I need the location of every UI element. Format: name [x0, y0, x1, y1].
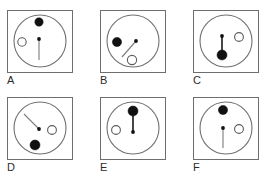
filled-dot	[128, 106, 138, 116]
dial-hub-dot	[220, 34, 224, 38]
filled-dot	[35, 18, 43, 26]
dial-graphic	[100, 10, 166, 73]
filled-dot	[112, 37, 121, 46]
dial-outline	[200, 15, 252, 67]
open-dot	[235, 125, 244, 134]
dial-graphic	[7, 10, 73, 73]
dial-hub-dot	[131, 130, 135, 134]
panel-c: C	[193, 10, 259, 73]
panel-label-f: F	[193, 161, 200, 174]
filled-dot	[30, 140, 40, 150]
open-dot	[112, 126, 121, 135]
filled-dot	[218, 105, 227, 114]
panel-label-b: B	[100, 74, 108, 87]
panel-label-a: A	[7, 74, 15, 87]
dial-hub-dot	[37, 37, 41, 41]
open-dot	[48, 126, 57, 135]
dial-hub-dot	[37, 127, 41, 131]
panel-e: E	[100, 97, 166, 160]
dial-hub-dot	[221, 126, 225, 130]
dial-graphic	[193, 97, 259, 160]
panel-d: D	[7, 97, 73, 160]
panel-label-c: C	[193, 74, 201, 87]
dial-hub-dot	[134, 39, 138, 43]
dial-graphic	[7, 97, 73, 160]
panel-label-e: E	[100, 161, 108, 174]
dial-graphic	[100, 97, 166, 160]
filled-dot	[217, 50, 227, 60]
open-dot	[18, 38, 26, 46]
open-dot	[127, 55, 136, 64]
dial-graphic	[193, 10, 259, 73]
panel-a: A	[7, 10, 73, 73]
panel-b: B	[100, 10, 166, 73]
panel-figure: ABCDEF	[0, 0, 269, 189]
panel-f: F	[193, 97, 259, 160]
open-dot	[235, 33, 244, 42]
panel-label-d: D	[7, 161, 15, 174]
